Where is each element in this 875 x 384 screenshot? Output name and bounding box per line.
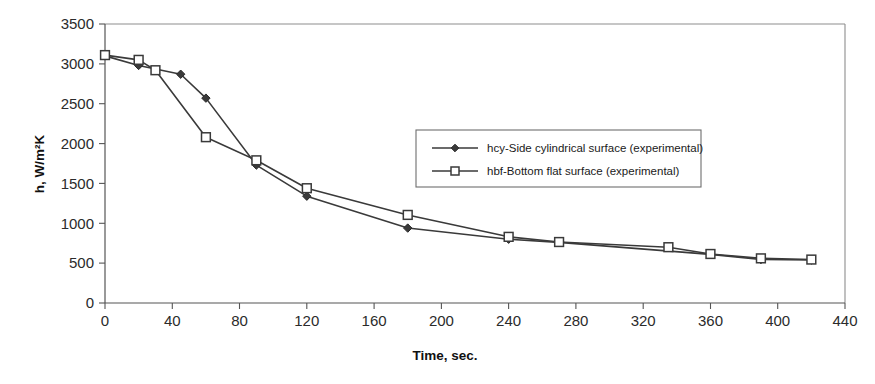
x-tick-label: 80 — [231, 312, 248, 329]
legend-label-hbf: hbf-Bottom flat surface (experimental) — [487, 165, 680, 177]
y-tick-label: 2000 — [61, 135, 94, 152]
x-tick-label: 280 — [563, 312, 588, 329]
data-point-marker-open-square — [403, 211, 412, 220]
chart-container: 0 500 1000 1500 2000 2500 3000 3500 0 — [0, 0, 875, 384]
data-point-marker-open-square — [101, 51, 110, 60]
data-point-marker-open-square — [202, 133, 211, 142]
x-tick-label: 0 — [101, 312, 109, 329]
data-point-marker-open-square — [252, 156, 261, 165]
chart-legend: hcy-Side cylindrical surface (experiment… — [416, 130, 703, 187]
x-tick-label: 240 — [496, 312, 521, 329]
data-point-marker-open-square — [757, 254, 766, 263]
data-point-marker-open-square — [555, 238, 564, 247]
data-point-marker-open-square — [706, 250, 715, 259]
x-axis-title: Time, sec. — [412, 348, 477, 363]
x-tick-label: 160 — [362, 312, 387, 329]
y-tick-label: 3000 — [61, 55, 94, 72]
x-tick-label: 360 — [698, 312, 723, 329]
x-tick-label: 400 — [765, 312, 790, 329]
y-tick-label: 1000 — [61, 215, 94, 232]
data-point-marker-open-square — [504, 232, 513, 241]
data-point-marker-open-square — [151, 66, 160, 75]
y-tick-label: 500 — [69, 254, 94, 271]
y-tick-label: 2500 — [61, 95, 94, 112]
x-tick-label: 120 — [294, 312, 319, 329]
x-tick-label: 40 — [164, 312, 181, 329]
data-point-marker-open-square — [134, 55, 143, 64]
y-tick-label: 1500 — [61, 175, 94, 192]
x-tick-label: 320 — [631, 312, 656, 329]
data-point-marker-open-square — [664, 243, 673, 252]
data-point-marker-open-square — [807, 255, 816, 264]
legend-label-hcy: hcy-Side cylindrical surface (experiment… — [487, 142, 703, 154]
data-point-marker-open-square — [302, 184, 311, 193]
y-axis-title: h, W/m²K — [32, 135, 47, 194]
y-tick-label: 3500 — [61, 15, 94, 32]
open-square-icon — [451, 167, 459, 175]
chart-svg: 0 500 1000 1500 2000 2500 3000 3500 0 — [0, 0, 875, 384]
legend-box — [416, 130, 701, 187]
x-tick-label: 200 — [429, 312, 454, 329]
x-tick-label: 440 — [832, 312, 857, 329]
y-tick-label: 0 — [86, 294, 94, 311]
